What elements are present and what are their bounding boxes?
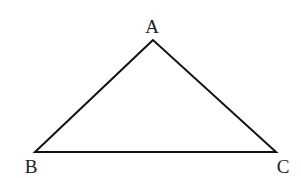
vertex-label-c: C	[277, 156, 290, 177]
vertex-label-a: A	[145, 16, 159, 37]
triangle-diagram: A B C	[0, 0, 301, 178]
triangle-abc	[35, 40, 276, 152]
vertex-label-b: B	[25, 156, 38, 177]
